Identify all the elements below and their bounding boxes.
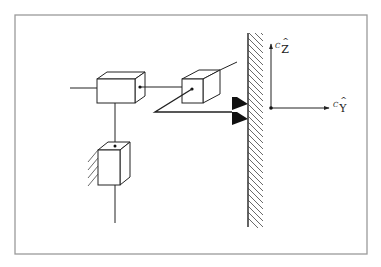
y-axis-label: CY: [333, 102, 347, 114]
block-1: [70, 72, 145, 143]
wall: [248, 20, 263, 233]
joint-dot-3: [114, 145, 117, 148]
z-axis-label: CZ: [275, 43, 289, 55]
axes-origin: [269, 106, 273, 110]
ground-hatch: [88, 150, 98, 186]
y-axis-letter: Y: [339, 103, 346, 114]
mechanism-diagram: [0, 0, 381, 267]
block-3: [98, 142, 130, 223]
figure-frame: [15, 15, 367, 254]
block-2: [182, 62, 237, 103]
z-frame-superscript: C: [275, 42, 280, 50]
contact-triangles: [232, 97, 248, 125]
z-axis-letter: Z: [281, 44, 289, 55]
y-frame-superscript: C: [333, 101, 338, 109]
